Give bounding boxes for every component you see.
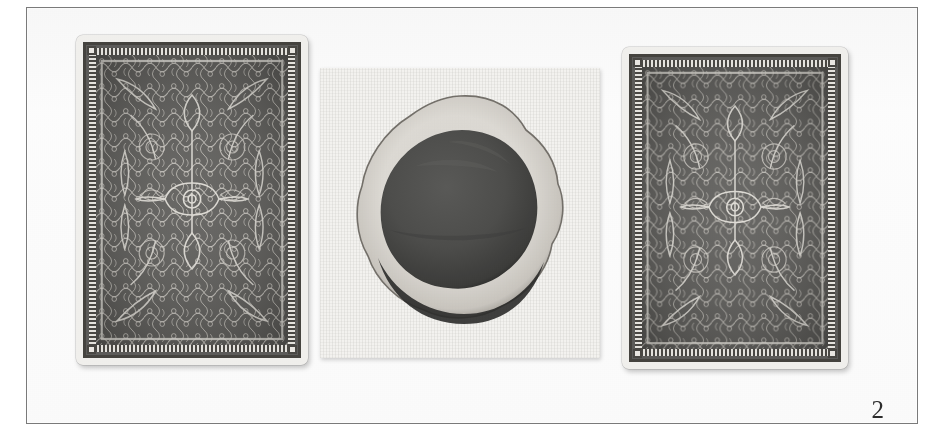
card-right-corner-pip [633, 349, 642, 358]
ink-blot [320, 68, 600, 358]
playing-card-back-right [622, 47, 848, 369]
card-left-printed-field [83, 42, 301, 358]
figure-number: 2 [872, 397, 885, 422]
paper-swatch-with-ink-blot [320, 68, 600, 358]
card-right-filigree-pattern [642, 67, 828, 349]
figure-plate: 2 [0, 0, 932, 444]
card-left-corner-pip [288, 46, 297, 55]
card-left-corner-pip [87, 46, 96, 55]
card-left-filigree-pattern [96, 55, 288, 345]
card-right-corner-pip [828, 349, 837, 358]
card-right-corner-pip [828, 58, 837, 67]
card-right-printed-field [629, 54, 841, 362]
photographic-content [28, 9, 916, 422]
playing-card-back-left [76, 35, 308, 365]
card-left-corner-pip [87, 345, 96, 354]
card-right-corner-pip [633, 58, 642, 67]
card-left-corner-pip [288, 345, 297, 354]
